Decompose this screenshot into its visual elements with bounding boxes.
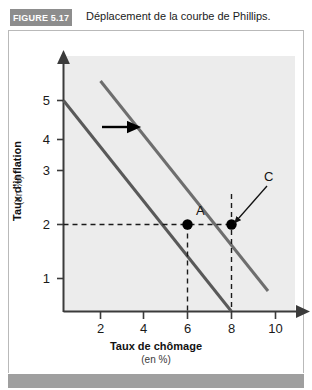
data-point-c [226,219,236,229]
x-axis-subtitle: (en %) [0,354,312,365]
x-axis-ticks [101,312,276,320]
x-tick-label-6: 6 [184,321,191,334]
y-tick-label-4: 4 [43,132,50,147]
x-tick-label-8: 8 [228,321,235,334]
y-tick-label-1: 1 [43,271,50,286]
y-tick-label-3: 3 [43,163,50,178]
y-tick-label-2: 2 [43,217,50,232]
x-tick-label-2: 2 [97,321,104,334]
data-point-c-label: C [264,169,273,184]
figure-number-badge: FIGURE 5.17 [10,9,72,26]
plot-area: 1 2 3 4 5 2 4 6 8 10 [0,34,312,334]
frame-top-border [8,30,304,31]
x-tick-label-10: 10 [268,321,282,334]
y-tick-label-5: 5 [43,93,50,108]
phillips-curve-chart: 1 2 3 4 5 2 4 6 8 10 [0,34,312,334]
data-point-a-label: A [196,203,205,218]
x-axis-title: Taux de chômage [0,340,312,352]
figure-container: FIGURE 5.17 Déplacement de la courbe de … [0,0,312,390]
data-point-a [182,219,192,229]
y-axis-subtitle: (en %) [13,141,24,241]
plot-background [63,56,295,312]
figure-caption: Déplacement de la courbe de Phillips. [86,10,271,22]
bottom-gray-bar [8,374,304,388]
x-tick-label-4: 4 [140,321,147,334]
